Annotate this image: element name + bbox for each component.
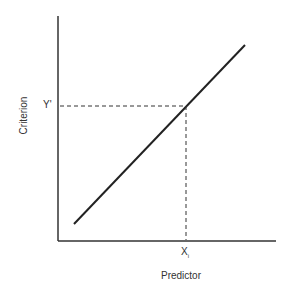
y-axis-label: Criterion [18,91,29,141]
x-marker-label: Xi [181,246,189,259]
x-marker-main: X [181,246,188,257]
x-marker-sub: i [188,253,189,259]
regression-line [74,45,245,224]
x-axis-label: Predictor [161,270,201,281]
regression-diagram [0,0,290,286]
y-marker-label: Y' [43,99,52,110]
